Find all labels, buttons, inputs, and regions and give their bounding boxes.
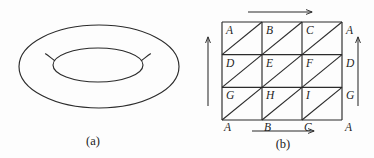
vertex-label-r1c2: F	[305, 57, 314, 69]
bottom-edge-label-0: A	[223, 121, 232, 133]
right-edge-label-1: D	[345, 57, 355, 69]
torus-inner-hole-ellipse	[53, 48, 143, 82]
torus-hole-right-tip-arc	[142, 54, 151, 61]
panel-a-torus-drawing: A B C D E F G H I A D G A B C A	[0, 0, 374, 158]
vertex-label-r2c0: G	[226, 89, 235, 101]
grid-group	[222, 22, 342, 120]
panel-a-caption: (a)	[86, 134, 100, 149]
right-edge-label-0: A	[345, 24, 354, 36]
vertex-label-r0c2: C	[306, 24, 314, 36]
panel-b-caption: (b)	[276, 137, 291, 152]
vertex-label-r2c1: H	[265, 89, 275, 101]
vertex-label-r0c0: A	[225, 24, 234, 36]
figure-root: A B C D E F G H I A D G A B C A (a) (b)	[0, 0, 374, 158]
vertex-label-r1c0: D	[225, 57, 235, 69]
torus-group	[19, 25, 179, 108]
torus-outer-ellipse	[19, 25, 179, 108]
vertex-label-r2c2: I	[305, 89, 311, 101]
right-edge-label-2: G	[346, 89, 355, 101]
bottom-right-corner-label: A	[344, 121, 353, 133]
torus-hole-left-tip-arc	[46, 54, 55, 61]
bottom-edge-label-1: B	[264, 121, 271, 133]
vertex-label-r1c1: E	[265, 57, 273, 69]
bottom-edge-label-2: C	[304, 121, 312, 133]
vertex-label-r0c1: B	[266, 24, 273, 36]
vertex-label-group: A B C D E F G H I A D G A B C A	[223, 24, 355, 133]
